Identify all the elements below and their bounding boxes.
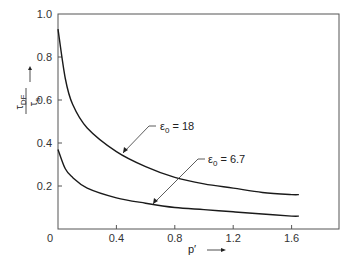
svg-text:1.6: 1.6 (284, 232, 299, 244)
plot-frame (58, 14, 339, 229)
svg-text:1.0: 1.0 (37, 8, 52, 20)
svg-text:0.2: 0.2 (37, 180, 52, 192)
svg-text:0.8: 0.8 (37, 51, 52, 63)
svg-text:1.2: 1.2 (226, 232, 241, 244)
annotation-eps67: ε0 = 6.7 (153, 153, 245, 204)
annotation-eps18: ε0 = 18 (123, 120, 194, 153)
svg-text:p′: p′ (188, 243, 196, 255)
svg-text:0: 0 (47, 232, 53, 244)
svg-text:ε0 = 6.7: ε0 = 6.7 (208, 153, 245, 168)
curve-series-0 (58, 29, 299, 195)
svg-text:0.4: 0.4 (109, 232, 124, 244)
svg-text:ε0 = 18: ε0 = 18 (160, 120, 194, 135)
svg-text:0.8: 0.8 (167, 232, 182, 244)
curve-series-1 (58, 149, 299, 216)
x-axis-label: p′ (188, 243, 226, 255)
chart: 00.40.81.21.60.20.40.60.81.0 ε0 = 18 ε0 … (0, 0, 349, 262)
y-axis-label: τDF τs (13, 66, 42, 114)
svg-text:0.4: 0.4 (37, 137, 52, 149)
